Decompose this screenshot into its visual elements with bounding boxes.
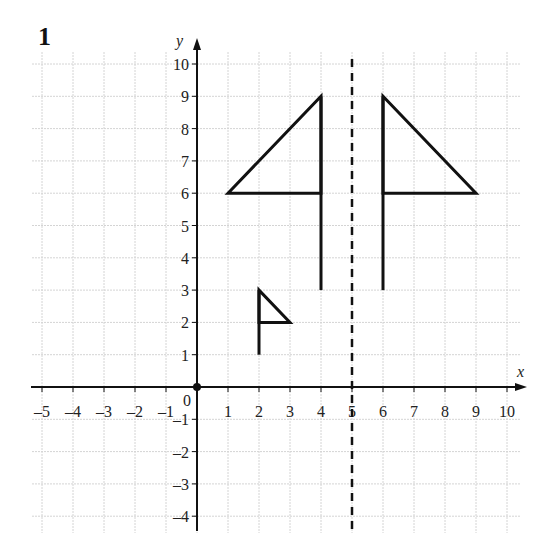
x-tick-label: 8 xyxy=(441,403,449,420)
flag-triangle xyxy=(383,96,476,193)
x-axis-arrow-icon xyxy=(515,383,527,391)
y-tick-label: –3 xyxy=(172,476,189,493)
x-axis-label: x xyxy=(516,363,524,380)
x-tick-label: –5 xyxy=(33,403,50,420)
y-tick-label: 10 xyxy=(173,56,189,73)
axes: xy xyxy=(31,32,527,531)
x-tick-label: –4 xyxy=(64,403,81,420)
y-tick-label: 8 xyxy=(181,121,189,138)
grid-lines xyxy=(32,52,521,533)
y-tick-label: 9 xyxy=(181,88,189,105)
flag-right-reflection xyxy=(383,96,476,290)
origin-label: 0 xyxy=(183,392,191,409)
y-tick-label: –4 xyxy=(172,508,189,525)
x-tick-label: 10 xyxy=(499,403,515,420)
flag-left xyxy=(228,96,321,290)
y-tick-label: 3 xyxy=(181,282,189,299)
x-tick-label: –3 xyxy=(95,403,112,420)
y-tick-label: 2 xyxy=(181,314,189,331)
y-tick-label: 1 xyxy=(181,347,189,364)
y-tick-label: 4 xyxy=(181,250,189,267)
flag-triangle xyxy=(259,290,290,322)
flag-triangle xyxy=(228,96,321,193)
x-tick-label: 7 xyxy=(410,403,418,420)
y-axis-label: y xyxy=(174,32,184,50)
x-tick-label: –1 xyxy=(157,403,174,420)
x-tick-label: 2 xyxy=(255,403,263,420)
y-tick-label: 7 xyxy=(181,153,189,170)
x-tick-label: 4 xyxy=(317,403,325,420)
y-tick-label: –1 xyxy=(172,411,189,428)
origin-point xyxy=(193,383,201,391)
x-tick-label: 1 xyxy=(224,403,232,420)
x-tick-label: –2 xyxy=(126,403,143,420)
y-tick-label: –2 xyxy=(172,444,189,461)
y-axis-arrow-icon xyxy=(193,38,201,50)
coordinate-grid-chart: xy –5–4–3–2–112345678910–4–3–2–112345678… xyxy=(0,0,552,554)
y-tick-label: 5 xyxy=(181,218,189,235)
flag-small xyxy=(259,290,290,355)
x-tick-label: 9 xyxy=(472,403,480,420)
x-tick-label: 3 xyxy=(286,403,294,420)
x-tick-label: 6 xyxy=(379,403,387,420)
y-tick-label: 6 xyxy=(181,185,189,202)
